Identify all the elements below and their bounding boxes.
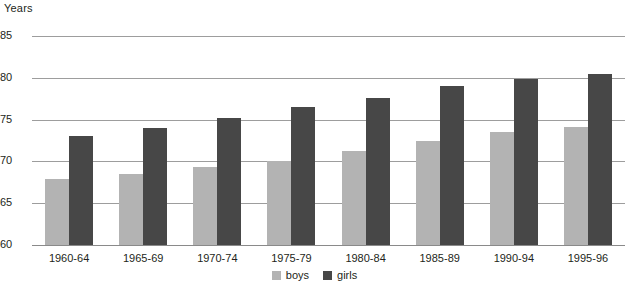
bar-girls — [217, 118, 241, 245]
bar-group — [254, 36, 328, 245]
bar-boys — [119, 174, 143, 245]
life-expectancy-bar-chart: Years 606570758085 1960-641965-691970-74… — [0, 0, 629, 293]
legend-item-girls: girls — [323, 269, 357, 281]
bar-girls — [366, 98, 390, 245]
chart-legend: boysgirls — [0, 269, 629, 281]
legend-item-boys: boys — [272, 269, 309, 281]
x-tick-label: 1980-84 — [329, 252, 403, 264]
x-tick-label: 1965-69 — [106, 252, 180, 264]
x-tick-label: 1995-96 — [551, 252, 625, 264]
x-tick-label: 1970-74 — [180, 252, 254, 264]
bar-boys — [45, 179, 69, 245]
legend-swatch-icon — [272, 271, 281, 280]
bar-boys — [193, 167, 217, 245]
x-tick-label: 1975-79 — [254, 252, 328, 264]
legend-swatch-icon — [323, 271, 332, 280]
bar-group — [403, 36, 477, 245]
gridline-60 — [32, 245, 625, 246]
bar-group — [106, 36, 180, 245]
bar-boys — [342, 151, 366, 245]
y-tick-label: 70 — [0, 155, 26, 166]
bar-girls — [514, 79, 538, 245]
bar-group — [551, 36, 625, 245]
bar-girls — [143, 128, 167, 245]
bar-girls — [588, 74, 612, 245]
bar-group — [32, 36, 106, 245]
y-tick-label: 85 — [0, 30, 26, 41]
bar-group — [180, 36, 254, 245]
y-tick-label: 80 — [0, 72, 26, 83]
x-tick-label: 1960-64 — [32, 252, 106, 264]
bar-boys — [490, 132, 514, 245]
plot-area — [32, 36, 625, 245]
bars-group — [32, 36, 625, 245]
y-axis-title: Years — [4, 2, 33, 14]
legend-label: girls — [337, 269, 357, 281]
legend-label: boys — [286, 269, 309, 281]
bar-girls — [291, 107, 315, 245]
bar-boys — [267, 161, 291, 245]
y-tick-label: 75 — [0, 114, 26, 125]
y-tick-label: 60 — [0, 239, 26, 250]
bar-group — [329, 36, 403, 245]
y-tick-label: 65 — [0, 197, 26, 208]
bar-girls — [440, 86, 464, 245]
bar-boys — [564, 127, 588, 245]
x-tick-label: 1990-94 — [477, 252, 551, 264]
bar-girls — [69, 136, 93, 245]
x-tick-label: 1985-89 — [403, 252, 477, 264]
bar-boys — [416, 141, 440, 245]
bar-group — [477, 36, 551, 245]
